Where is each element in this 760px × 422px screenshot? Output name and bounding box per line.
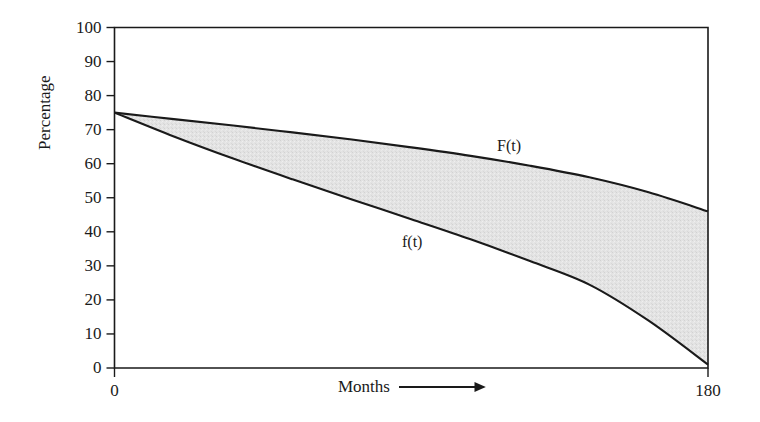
y-axis-ticks [107,28,115,369]
annotation-F-of-t: F(t) [497,138,521,154]
y-tick-label: 30 [85,257,102,274]
x-tick-label: 0 [85,382,145,399]
y-tick-label: 80 [85,87,102,104]
y-tick-label: 90 [85,53,102,70]
y-tick-label: 10 [85,325,102,342]
x-tick-label: 180 [678,382,738,399]
right-arrow-icon [399,380,491,394]
y-tick-label: 70 [85,121,102,138]
y-tick-label: 0 [93,359,102,376]
y-tick-label: 20 [85,291,102,308]
x-axis-ticks [115,368,709,377]
chart-figure: 1009080706050403020100 0180 Percentage M… [0,0,760,422]
y-tick-label: 60 [85,155,102,172]
x-axis-title-group: Months [338,378,491,395]
chart-plot-area [0,0,760,422]
y-tick-label: 50 [85,189,102,206]
y-tick-label: 40 [85,223,102,240]
x-axis-title: Months [338,378,390,395]
y-axis-title: Percentage [36,0,53,150]
annotation-f-of-t: f(t) [402,234,422,250]
y-axis-title-wrap: Percentage [22,0,52,422]
y-tick-label: 100 [76,19,102,36]
